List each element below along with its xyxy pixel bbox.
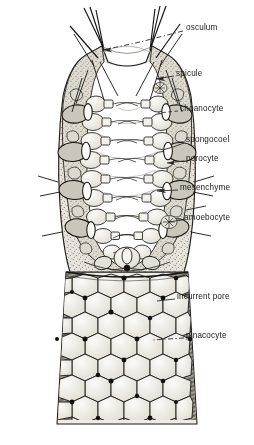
label-pinacocyte: pinacocyte — [186, 332, 227, 340]
label-choanocyte: choanocyte — [180, 105, 223, 113]
label-porocyte: porocyte — [186, 155, 219, 163]
pinacoderm-region — [54, 272, 197, 435]
label-mesenchyme: mesenchyme — [180, 184, 230, 192]
pinacocyte-mosaic — [54, 274, 193, 435]
label-spicule: spicule — [176, 70, 203, 78]
label-spongocoel: spongocoel — [186, 136, 229, 144]
label-osculum: osculum — [186, 24, 218, 32]
sponge-diagram: osculum spicule choanocyte spongocoel po… — [0, 0, 254, 445]
label-incurrent-pore: incurrent pore — [177, 293, 230, 301]
label-amoebocyte: amoebocyte — [184, 214, 230, 222]
sponge-illustration — [0, 0, 254, 445]
